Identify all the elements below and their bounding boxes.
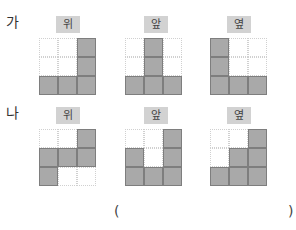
- filled-cell: [39, 76, 58, 95]
- filled-cell: [163, 76, 182, 95]
- view-label-top-na: 위: [56, 107, 80, 124]
- filled-cell: [77, 129, 96, 148]
- grid-side-view-ga: [210, 38, 267, 95]
- filled-cell: [163, 148, 182, 167]
- empty-cell: [125, 38, 144, 57]
- filled-cell: [248, 148, 267, 167]
- filled-cell: [125, 148, 144, 167]
- view-label-side-ga: 옆: [227, 16, 251, 33]
- empty-cell: [144, 148, 163, 167]
- empty-cell: [39, 129, 58, 148]
- filled-cell: [163, 167, 182, 186]
- grid-side-view-na: [210, 129, 267, 186]
- filled-cell: [163, 129, 182, 148]
- empty-cell: [125, 57, 144, 76]
- filled-cell: [77, 57, 96, 76]
- empty-cell: [210, 148, 229, 167]
- filled-cell: [58, 76, 77, 95]
- empty-cell: [77, 167, 96, 186]
- empty-cell: [210, 129, 229, 148]
- empty-cell: [229, 57, 248, 76]
- empty-cell: [58, 38, 77, 57]
- empty-cell: [58, 129, 77, 148]
- grid-front-view-na: [125, 129, 182, 186]
- filled-cell: [144, 38, 163, 57]
- filled-cell: [144, 57, 163, 76]
- view-label-front-ga: 앞: [144, 16, 168, 33]
- filled-cell: [248, 129, 267, 148]
- view-label-top-ga: 위: [56, 16, 80, 33]
- filled-cell: [39, 148, 58, 167]
- grid-top-view-ga: [39, 38, 96, 95]
- empty-cell: [248, 57, 267, 76]
- filled-cell: [210, 76, 229, 95]
- filled-cell: [125, 76, 144, 95]
- empty-cell: [58, 167, 77, 186]
- empty-cell: [144, 129, 163, 148]
- view-label-front-na: 앞: [144, 107, 168, 124]
- empty-cell: [163, 57, 182, 76]
- empty-cell: [125, 129, 144, 148]
- problem-label-na: 나: [6, 105, 19, 121]
- filled-cell: [210, 167, 229, 186]
- answer-blank[interactable]: [125, 201, 285, 221]
- empty-cell: [39, 57, 58, 76]
- filled-cell: [77, 38, 96, 57]
- filled-cell: [248, 76, 267, 95]
- filled-cell: [210, 57, 229, 76]
- empty-cell: [39, 38, 58, 57]
- empty-cell: [229, 38, 248, 57]
- filled-cell: [229, 76, 248, 95]
- filled-cell: [39, 167, 58, 186]
- filled-cell: [229, 148, 248, 167]
- answer-open-paren: (: [114, 203, 119, 219]
- filled-cell: [144, 167, 163, 186]
- empty-cell: [58, 57, 77, 76]
- grid-front-view-ga: [125, 38, 182, 95]
- filled-cell: [58, 148, 77, 167]
- view-label-side-na: 옆: [227, 107, 251, 124]
- filled-cell: [248, 167, 267, 186]
- answer-close-paren: ): [288, 203, 293, 219]
- filled-cell: [229, 167, 248, 186]
- problem-label-ga: 가: [6, 14, 19, 30]
- grid-top-view-na: [39, 129, 96, 186]
- filled-cell: [144, 76, 163, 95]
- filled-cell: [77, 76, 96, 95]
- empty-cell: [248, 38, 267, 57]
- filled-cell: [210, 38, 229, 57]
- empty-cell: [229, 129, 248, 148]
- filled-cell: [77, 148, 96, 167]
- filled-cell: [125, 167, 144, 186]
- empty-cell: [163, 38, 182, 57]
